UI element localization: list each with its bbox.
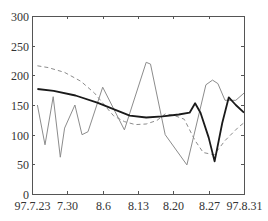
axis-frame [33,17,245,195]
series-layer [37,62,244,165]
y-tick-label: 100 [11,129,29,143]
ticks-layer [32,16,245,195]
y-tick-label: 300 [11,10,29,24]
x-tick-label: 97.7.23 [15,199,51,213]
thick-black-series [37,89,244,161]
thin-gray-series [37,62,244,165]
x-tick-label: 8.20 [163,199,184,213]
x-tick-label: 97.8.31 [227,199,263,213]
x-tick-label: 8.6 [96,199,111,213]
chart-canvas: 05010015020025030097.7.237.308.68.138.20… [0,0,268,221]
y-tick-label: 200 [11,69,29,83]
y-tick-label: 250 [11,40,29,54]
y-tick-label: 50 [17,158,29,172]
x-tick-label: 8.27 [199,199,220,213]
x-tick-label: 7.30 [57,199,78,213]
x-tick-label: 8.13 [128,199,149,213]
y-tick-label: 150 [11,99,29,113]
line-chart: 05010015020025030097.7.237.308.68.138.20… [0,0,268,221]
